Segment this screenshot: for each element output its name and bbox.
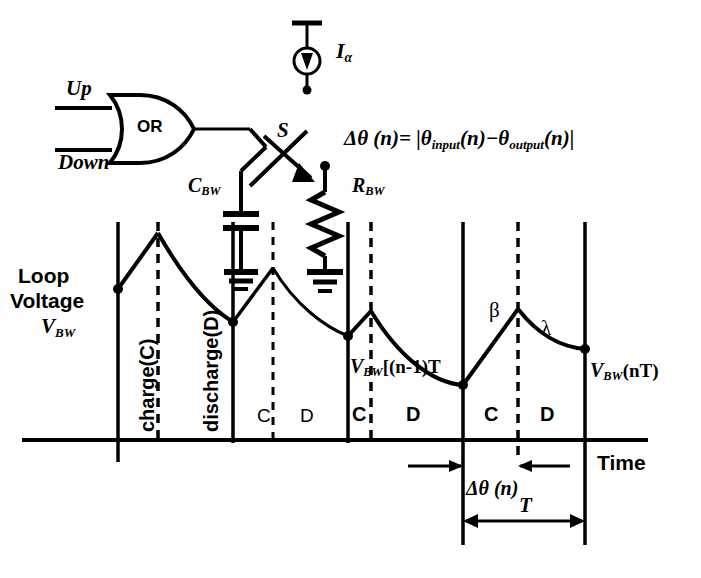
- v-bw-previous-sample-label: VBW[(n-1)T: [350, 356, 441, 379]
- v-bw-current-symbol: V: [590, 359, 603, 381]
- switch-label: S: [277, 120, 289, 141]
- phase-label-discharge: discharge(D): [201, 310, 221, 432]
- phase-label-c: C: [352, 404, 366, 424]
- current-source-symbol: I: [336, 38, 345, 63]
- phase-label-c: C: [257, 406, 271, 425]
- v-bw-current-subscript: BW: [603, 369, 622, 383]
- diagram-vector-layer: [0, 0, 701, 578]
- beta-annotation: β: [489, 300, 500, 321]
- capacitor-subscript: BW: [201, 184, 220, 198]
- y-axis-subscript: BW: [55, 325, 75, 340]
- arrow-head-left: [463, 514, 478, 528]
- x-axis-label: Time: [597, 452, 646, 473]
- phase-label-charge: charge(C): [137, 339, 157, 432]
- arrow-head-right: [449, 460, 463, 472]
- or-gate-input-down-label: Down: [58, 152, 109, 173]
- phase-label-c: C: [484, 404, 498, 424]
- current-source-label: Iα: [336, 40, 352, 64]
- equation-tail: (n)|: [544, 126, 574, 150]
- capacitor-symbol: C: [188, 174, 201, 196]
- resistor-symbol: R: [352, 174, 365, 196]
- waveform-sample-dot: [228, 317, 238, 327]
- period-label: T: [519, 495, 532, 516]
- equation-sub-output: output: [509, 137, 544, 152]
- current-source-subscript: α: [345, 50, 353, 65]
- resistor-icon: [311, 192, 339, 256]
- resistor-label: RBW: [352, 175, 385, 198]
- y-axis-label-line2: Voltage: [10, 290, 84, 311]
- waveform-sample-dot: [343, 331, 353, 341]
- delta-theta-dimension: [408, 460, 570, 472]
- v-bw-current-sample-label: VBW(nT): [590, 360, 659, 383]
- capacitor-group: [223, 196, 259, 289]
- waveform-sample-dot: [113, 284, 123, 294]
- y-axis-label-line3: VBW: [41, 316, 75, 339]
- phase-label-d: D: [406, 404, 420, 424]
- y-axis-label-line1: Loop: [18, 265, 69, 286]
- or-gate-label: OR: [137, 118, 163, 135]
- v-bw-previous-symbol: V: [350, 355, 363, 377]
- capacitor-label: CBW: [188, 175, 221, 198]
- lambda-annotation: λ: [541, 318, 551, 339]
- waveform-sample-dot: [580, 344, 590, 354]
- arrow-head-left: [518, 460, 532, 472]
- phase-label-d: D: [300, 406, 314, 425]
- resistor-group: [307, 166, 343, 291]
- or-gate-input-up-label: Up: [66, 78, 92, 99]
- v-bw-previous-tail: [(n-1)T: [383, 356, 441, 377]
- phase-error-equation: Δθ (n)= |θinput(n)−θoutput(n)|: [344, 128, 574, 151]
- arrow-head-right: [570, 514, 585, 528]
- v-bw-previous-subscript: BW: [363, 365, 382, 379]
- phase-label-d: D: [540, 404, 554, 424]
- v-bw-current-tail: (nT): [623, 360, 659, 381]
- y-axis-symbol: V: [41, 314, 55, 338]
- equation-mid: (n)−θ: [460, 126, 509, 150]
- resistor-subscript: BW: [365, 184, 384, 198]
- waveform-sample-dot: [458, 380, 468, 390]
- equation-lhs: Δθ (n)= |θ: [344, 126, 432, 150]
- node-dot: [303, 86, 312, 95]
- delta-theta-label: Δθ (n): [466, 478, 518, 498]
- equation-sub-input: input: [432, 137, 460, 152]
- figure-canvas: Up Down OR Iα S CBW RBW Δθ (n)= |θinput(…: [0, 0, 701, 578]
- current-source-group: [292, 23, 322, 95]
